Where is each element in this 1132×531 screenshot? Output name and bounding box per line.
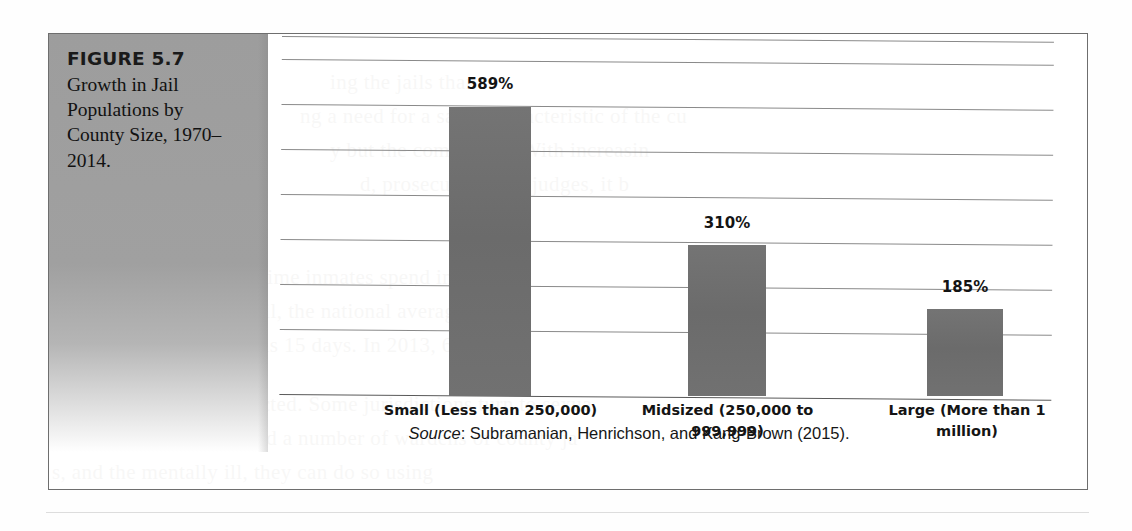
bar-large-county[interactable] bbox=[927, 309, 1003, 396]
figure-caption-panel: FIGURE 5.7 Growth in Jail Populations by… bbox=[49, 34, 268, 452]
plot-area: 589% 310% 185% bbox=[282, 34, 1054, 396]
bars-group: 589% 310% 185% bbox=[282, 34, 1054, 396]
source-note: Source: Subramanian, Henrichson, and Kan… bbox=[219, 424, 1039, 443]
bar-chart: 589% 310% 185% Small (Less than 250,000)… bbox=[268, 34, 1087, 489]
source-label: Source bbox=[408, 424, 460, 442]
figure-title: Growth in Jail Populations by County Siz… bbox=[67, 72, 232, 173]
category-label-small: Small (Less than 250,000) bbox=[368, 400, 613, 421]
bar-midsized-county[interactable] bbox=[688, 245, 766, 396]
figure-container: FIGURE 5.7 Growth in Jail Populations by… bbox=[48, 33, 1088, 490]
bar-small-county[interactable] bbox=[449, 107, 531, 396]
source-citation: : Subramanian, Henrichson, and Kang-Brow… bbox=[461, 424, 850, 442]
page-bottom-rule bbox=[46, 512, 1089, 513]
figure-number: FIGURE 5.7 bbox=[67, 47, 258, 70]
bar-value-label-midsized: 310% bbox=[672, 214, 782, 232]
bar-value-label-small: 589% bbox=[435, 75, 545, 93]
bar-value-label-large: 185% bbox=[910, 278, 1020, 296]
